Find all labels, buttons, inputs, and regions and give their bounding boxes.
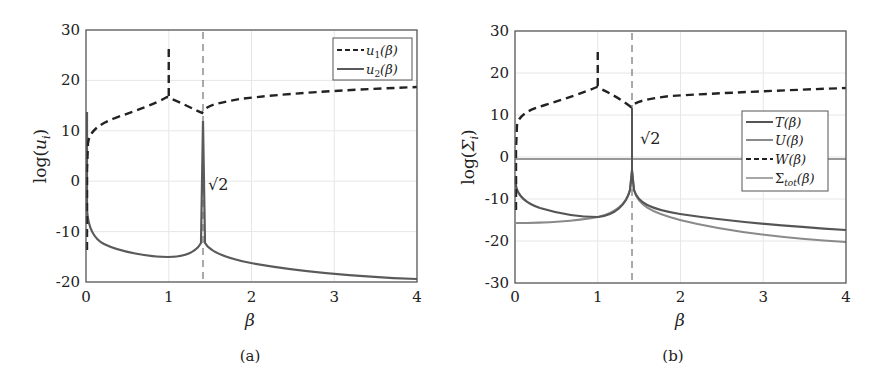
svg-text:U(β): U(β) [775,133,804,148]
sqrt2-annotation: √2 [640,129,660,148]
x-axis-label: β [674,310,685,330]
legend: T(β) U(β) W(β) Σtot(β) [742,111,828,191]
y-tick-labels: -20 -10 0 10 20 30 [56,21,80,291]
x-tick: 1 [593,288,603,306]
svg-text:u1(β): u1(β) [366,43,398,60]
svg-text:T(β): T(β) [775,115,801,130]
chart-panel-a: -20 -10 0 10 20 30 0 1 2 3 4 β log(ui) √… [0,0,440,392]
x-tick: 4 [412,288,422,306]
y-tick: 0 [499,148,509,166]
x-tick: 0 [81,288,91,306]
x-axis-label: β [244,310,255,330]
x-tick: 0 [510,288,520,306]
x-tick-labels: 0 1 2 3 4 [81,288,422,306]
legend: u1(β) u2(β) [333,38,412,80]
y-tick: -20 [56,273,80,291]
y-tick-labels: -30 -20 -10 0 10 20 30 [485,22,509,292]
y-tick: 10 [61,122,80,140]
sqrt2-annotation: √2 [208,175,228,194]
panel-caption: (b) [662,347,683,365]
svg-text:log(Σi): log(Σi) [458,129,481,184]
y-tick: 20 [490,64,509,82]
x-tick: 1 [164,288,174,306]
y-tick: 30 [61,21,80,39]
x-tick: 4 [841,288,851,306]
svg-text:log(ui): log(ui) [30,129,53,183]
y-tick: -10 [56,223,80,241]
x-tick: 3 [758,288,768,306]
y-tick: -10 [485,190,509,208]
svg-text:u2(β): u2(β) [366,62,398,79]
y-tick: 20 [61,71,80,89]
x-tick: 2 [247,288,257,306]
y-tick: 0 [70,172,80,190]
x-tick-labels: 0 1 2 3 4 [510,288,851,306]
y-tick: -30 [485,274,509,292]
y-tick: -20 [485,232,509,250]
y-axis-label: log(ui) [30,129,53,183]
x-tick: 3 [329,288,339,306]
x-tick: 2 [676,288,686,306]
panel-caption: (a) [240,347,261,365]
y-tick: 10 [490,106,509,124]
chart-panel-b: -30 -20 -10 0 10 20 30 0 1 2 3 4 β log(Σ… [440,0,883,392]
y-tick: 30 [490,22,509,40]
svg-text:W(β): W(β) [775,152,806,167]
y-axis-label: log(Σi) [458,129,481,184]
